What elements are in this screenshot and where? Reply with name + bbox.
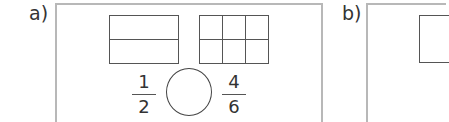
fraction-left-numerator: 1 xyxy=(132,72,156,92)
fraction-left: 1 2 xyxy=(132,72,156,117)
fraction-right-bar xyxy=(222,94,246,95)
panel-b-label: b) xyxy=(342,2,361,24)
fraction-right-numerator: 4 xyxy=(222,72,246,92)
fraction-right: 4 6 xyxy=(222,72,246,117)
rectangle-halves-divider xyxy=(109,39,179,40)
panel-b-rectangle xyxy=(419,15,449,63)
fraction-left-denominator: 2 xyxy=(132,97,156,117)
panel-a-label: a) xyxy=(29,2,48,24)
comparison-symbol-blank[interactable] xyxy=(166,68,212,116)
rectangle-sixths-col-divider-2 xyxy=(245,15,246,64)
rectangle-sixths-col-divider-1 xyxy=(222,15,223,64)
fraction-right-denominator: 6 xyxy=(222,97,246,117)
fraction-left-bar xyxy=(132,94,156,95)
rectangle-sixths-row-divider xyxy=(199,39,269,40)
